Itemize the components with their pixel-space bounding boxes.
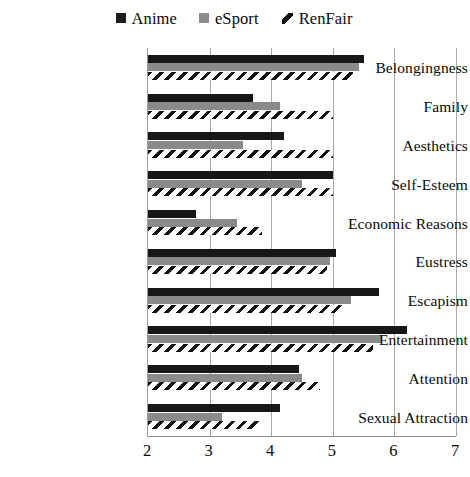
legend-item-renfair: RenFair [281, 11, 353, 28]
legend-swatch-anime-icon [116, 13, 126, 23]
bar-anime-family [148, 94, 253, 102]
bar-anime-eustress [148, 249, 336, 257]
chart-legend: Anime eSport RenFair [0, 11, 468, 28]
category-label-attention: Attention [327, 371, 468, 387]
bar-renfair-family [148, 111, 333, 119]
bar-renfair-self-esteem [148, 188, 333, 196]
bar-anime-sexual-attraction [148, 404, 280, 412]
bar-esport-escapism [148, 296, 351, 304]
legend-label-esport: eSport [215, 11, 259, 28]
bar-renfair-eustress [148, 266, 327, 274]
bar-renfair-attention [148, 382, 320, 390]
category-label-family: Family [327, 99, 468, 115]
bar-esport-sexual-attraction [148, 413, 222, 421]
bar-renfair-escapism [148, 305, 342, 313]
legend-swatch-esport-icon [199, 13, 209, 23]
category-label-economic-reasons: Economic Reasons [327, 216, 468, 232]
legend-label-anime: Anime [132, 11, 177, 28]
category-label-entertainment: Entertainment [327, 332, 468, 348]
x-axis-line [147, 436, 456, 437]
x-tick-label: 7 [440, 443, 470, 460]
x-tick-label: 4 [255, 443, 285, 460]
bar-renfair-economic-reasons [148, 227, 262, 235]
bar-renfair-aesthetics [148, 150, 333, 158]
category-label-belongingness: Belongingness [327, 60, 468, 76]
bar-renfair-belongingness [148, 72, 353, 80]
legend-item-anime: Anime [116, 11, 177, 28]
category-label-aesthetics: Aesthetics [327, 138, 468, 154]
category-label-eustress: Eustress [327, 254, 468, 270]
bar-esport-family [148, 102, 280, 110]
bar-anime-attention [148, 365, 299, 373]
bar-anime-self-esteem [148, 171, 333, 179]
x-tick-label: 5 [317, 443, 347, 460]
category-label-escapism: Escapism [327, 293, 468, 309]
legend-item-esport: eSport [199, 11, 259, 28]
x-tick-label: 2 [132, 443, 162, 460]
x-tick-label: 3 [194, 443, 224, 460]
x-tick-label: 6 [378, 443, 408, 460]
bar-anime-aesthetics [148, 132, 284, 140]
bar-anime-economic-reasons [148, 210, 196, 218]
bar-esport-eustress [148, 257, 330, 265]
category-label-sexual-attraction: Sexual Attraction [327, 410, 468, 426]
bar-renfair-sexual-attraction [148, 421, 259, 429]
bar-esport-self-esteem [148, 180, 302, 188]
bar-esport-aesthetics [148, 141, 243, 149]
bar-esport-attention [148, 374, 302, 382]
category-label-self-esteem: Self-Esteem [327, 177, 468, 193]
bar-esport-economic-reasons [148, 219, 237, 227]
legend-swatch-renfair-icon [281, 12, 293, 24]
legend-label-renfair: RenFair [299, 11, 353, 28]
